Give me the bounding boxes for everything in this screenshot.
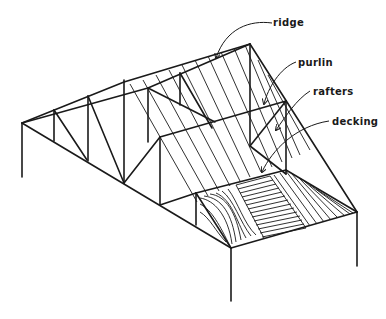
decking-leader [262,121,329,172]
roof-framing-diagram: ridge purlin rafters decking [0,0,386,319]
label-purlin: purlin [298,57,333,68]
label-rafters: rafters [313,86,354,97]
truss-frame [22,44,357,301]
roof-rafters [130,45,310,202]
label-ridge: ridge [273,17,304,28]
purlin-leader [264,62,296,104]
label-decking: decking [332,116,378,127]
ridge-leader [216,22,272,58]
